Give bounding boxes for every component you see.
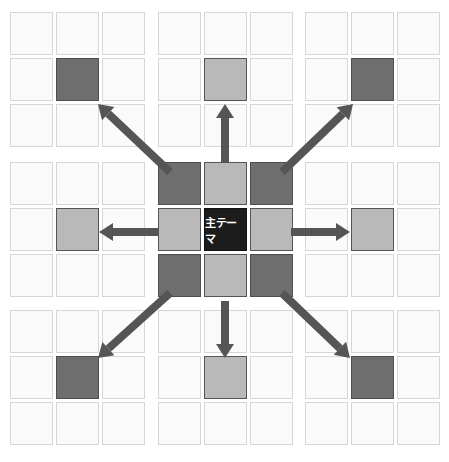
sub-theme-cell [204,162,247,205]
empty-cell [305,12,348,55]
empty-cell [397,402,440,445]
sub-theme-cell [158,254,201,297]
empty-cell [102,162,145,205]
empty-cell [10,208,53,251]
empty-cell [56,162,99,205]
sub-theme-cell [204,254,247,297]
block-center-cell [56,58,99,101]
empty-cell [56,104,99,147]
empty-cell [10,162,53,205]
empty-cell [250,12,293,55]
empty-cell [305,402,348,445]
empty-cell [351,104,394,147]
empty-cell [10,310,53,353]
empty-cell [351,254,394,297]
empty-cell [397,58,440,101]
empty-cell [102,208,145,251]
empty-cell [204,402,247,445]
empty-cell [250,310,293,353]
empty-cell [10,254,53,297]
empty-cell [351,310,394,353]
empty-cell [397,310,440,353]
empty-cell [56,402,99,445]
empty-cell [250,58,293,101]
empty-cell [56,12,99,55]
empty-cell [158,402,201,445]
empty-cell [102,12,145,55]
block-center-cell [56,356,99,399]
empty-cell [56,310,99,353]
empty-cell [397,254,440,297]
block-center-cell [204,58,247,101]
empty-cell [250,104,293,147]
empty-cell [10,12,53,55]
main-theme-cell: 主テーマ [204,208,247,251]
empty-cell [305,162,348,205]
empty-cell [10,356,53,399]
sub-theme-cell [250,254,293,297]
block-center-cell [56,208,99,251]
empty-cell [158,104,201,147]
empty-cell [158,310,201,353]
empty-cell [204,12,247,55]
empty-cell [305,356,348,399]
empty-cell [351,402,394,445]
empty-cell [158,12,201,55]
empty-cell [56,254,99,297]
empty-cell [397,356,440,399]
empty-cell [102,402,145,445]
block-center-cell [351,208,394,251]
block-center-cell [204,356,247,399]
empty-cell [102,310,145,353]
empty-cell [305,58,348,101]
empty-cell [305,310,348,353]
empty-cell [397,208,440,251]
empty-cell [10,104,53,147]
empty-cell [250,356,293,399]
empty-cell [397,162,440,205]
block-center-cell [351,58,394,101]
empty-cell [158,356,201,399]
empty-cell [10,402,53,445]
empty-cell [351,162,394,205]
sub-theme-cell [250,208,293,251]
sub-theme-cell [158,162,201,205]
empty-cell [305,208,348,251]
block-center-cell [351,356,394,399]
empty-cell [351,12,394,55]
empty-cell [102,254,145,297]
empty-cell [204,104,247,147]
main-theme-label: 主テーマ [205,214,246,246]
empty-cell [102,58,145,101]
empty-cell [10,58,53,101]
empty-cell [158,58,201,101]
empty-cell [397,104,440,147]
empty-cell [250,402,293,445]
empty-cell [102,356,145,399]
empty-cell [305,254,348,297]
mandala-diagram: 主テーマ [0,0,449,462]
empty-cell [204,310,247,353]
empty-cell [305,104,348,147]
sub-theme-cell [250,162,293,205]
sub-theme-cell [158,208,201,251]
empty-cell [102,104,145,147]
empty-cell [397,12,440,55]
